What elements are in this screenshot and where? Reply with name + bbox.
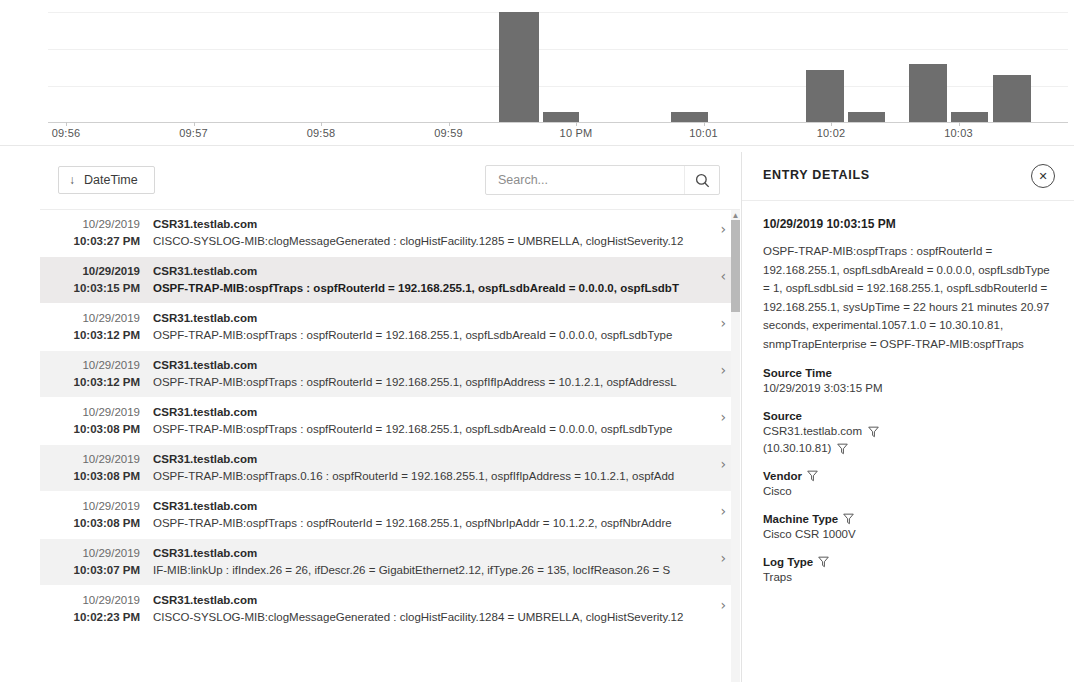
expand-chevron-icon[interactable]: › <box>720 410 726 424</box>
entry-row-timestamp: 10/29/201910:03:27 PM <box>58 216 140 250</box>
entry-list-row[interactable]: 10/29/201910:03:12 PMCSR31.testlab.comOS… <box>40 304 740 351</box>
expand-chevron-icon[interactable]: › <box>720 222 726 236</box>
entry-row-time: 10:03:08 PM <box>58 421 140 438</box>
scroll-up-arrow-icon[interactable]: ▲ <box>731 210 740 220</box>
expand-chevron-icon[interactable]: › <box>720 504 726 518</box>
entry-row-time: 10:03:07 PM <box>58 562 140 579</box>
field-value-text: (10.30.10.81) <box>763 440 831 457</box>
entry-row-host: CSR31.testlab.com <box>153 451 710 468</box>
chart-bottom-divider <box>0 145 1074 146</box>
chart-x-tick <box>321 122 322 126</box>
entry-row-time: 10:03:12 PM <box>58 374 140 391</box>
entry-detail-field-value: CSR31.testlab.com <box>763 423 1057 440</box>
field-value-text: Cisco CSR 1000V <box>763 526 856 543</box>
entry-row-time: 10:03:08 PM <box>58 515 140 532</box>
filter-funnel-icon[interactable] <box>818 556 829 568</box>
chart-bar[interactable] <box>543 112 579 122</box>
expand-chevron-icon[interactable]: › <box>720 363 726 377</box>
chart-x-tick <box>66 122 67 126</box>
chart-bar[interactable] <box>848 112 885 122</box>
chart-x-tick <box>959 122 960 126</box>
entry-list-row[interactable]: 10/29/201910:03:08 PMCSR31.testlab.comOS… <box>40 492 740 539</box>
expand-chevron-icon[interactable]: › <box>720 457 726 471</box>
sort-descending-arrow-icon: ↓ <box>69 174 75 186</box>
expand-chevron-icon[interactable]: › <box>720 316 726 330</box>
field-value-text: Cisco <box>763 483 792 500</box>
close-icon[interactable]: ✕ <box>1031 164 1055 188</box>
field-label-text: Machine Type <box>763 513 838 525</box>
chart-bar[interactable] <box>806 70 844 122</box>
entry-row-timestamp: 10/29/201910:03:15 PM <box>58 263 140 297</box>
entry-details-body: 10/29/2019 10:03:15 PM OSPF-TRAP-MIB:osp… <box>742 201 1074 682</box>
filter-funnel-icon[interactable] <box>807 470 818 482</box>
chart-x-tick <box>831 122 832 126</box>
search-icon[interactable] <box>684 166 719 194</box>
expand-chevron-icon[interactable]: › <box>720 551 726 565</box>
chart-x-tick-label: 10:03 <box>944 127 973 139</box>
entry-details-header: ENTRY DETAILS ✕ <box>742 152 1074 201</box>
search-input[interactable] <box>486 167 684 193</box>
entry-list-row[interactable]: 10/29/201910:02:23 PMCSR31.testlab.comCI… <box>40 586 740 633</box>
entry-detail-field-value: Traps <box>763 569 1057 586</box>
list-toolbar: ↓ DateTime <box>40 152 740 210</box>
chart-bar[interactable] <box>671 112 708 122</box>
expand-chevron-icon[interactable]: › <box>720 598 726 612</box>
entry-row-timestamp: 10/29/201910:03:08 PM <box>58 498 140 532</box>
filter-funnel-icon[interactable] <box>868 426 879 438</box>
timeline-chart[interactable]: 09:5609:5709:5809:5910 PM10:0110:0210:03 <box>0 0 1074 146</box>
entry-row-time: 10:03:12 PM <box>58 327 140 344</box>
entry-row-timestamp: 10/29/201910:03:08 PM <box>58 451 140 485</box>
chart-x-tick-label: 09:57 <box>179 127 208 139</box>
entry-list-row[interactable]: 10/29/201910:03:07 PMCSR31.testlab.comIF… <box>40 539 740 586</box>
field-label-text: Source <box>763 410 802 422</box>
entry-row-timestamp: 10/29/201910:03:08 PM <box>58 404 140 438</box>
filter-funnel-icon[interactable] <box>843 513 854 525</box>
field-label-text: Source Time <box>763 367 832 379</box>
entry-row-date: 10/29/2019 <box>82 359 140 371</box>
chart-bar[interactable] <box>951 112 988 122</box>
entry-detail-field-value: Cisco CSR 1000V <box>763 526 1057 543</box>
scrollbar-thumb[interactable] <box>731 220 740 312</box>
entry-row-time: 10:03:27 PM <box>58 233 140 250</box>
chart-gridline <box>48 12 1068 13</box>
chart-x-tick <box>449 122 450 126</box>
entry-row-host: CSR31.testlab.com <box>153 263 710 280</box>
collapse-chevron-icon[interactable]: ‹ <box>720 269 726 283</box>
entry-list[interactable]: 10/29/201910:03:27 PMCSR31.testlab.comCI… <box>40 210 740 682</box>
sort-datetime-button[interactable]: ↓ DateTime <box>58 166 155 194</box>
chart-bar[interactable] <box>993 75 1031 122</box>
chart-x-axis <box>48 122 1068 123</box>
entry-row-date: 10/29/2019 <box>82 406 140 418</box>
chart-bar[interactable] <box>499 12 539 122</box>
search-box[interactable] <box>485 165 720 195</box>
entry-row-time: 10:03:15 PM <box>58 280 140 297</box>
entry-detail-field-label: Source Time <box>763 367 1057 379</box>
entry-row-timestamp: 10/29/201910:03:12 PM <box>58 310 140 344</box>
entry-list-row[interactable]: 10/29/201910:03:27 PMCSR31.testlab.comCI… <box>40 210 740 257</box>
chart-bar[interactable] <box>909 64 947 122</box>
entry-detail-timestamp: 10/29/2019 10:03:15 PM <box>763 217 1057 231</box>
chart-gridline <box>48 49 1068 50</box>
entry-row-host: CSR31.testlab.com <box>153 592 710 609</box>
entry-list-row[interactable]: 10/29/201910:03:15 PMCSR31.testlab.comOS… <box>40 257 740 304</box>
filter-funnel-icon[interactable] <box>837 443 848 455</box>
chart-x-tick <box>194 122 195 126</box>
entry-row-host: CSR31.testlab.com <box>153 216 710 233</box>
entry-detail-field-value: Cisco <box>763 483 1057 500</box>
entry-list-panel: ↓ DateTime 10/29/201910:03:27 PMCSR31.te… <box>40 152 740 682</box>
entry-detail-field-value: 10/29/2019 3:03:15 PM <box>763 380 1057 397</box>
entry-list-row[interactable]: 10/29/201910:03:12 PMCSR31.testlab.comOS… <box>40 351 740 398</box>
chart-x-tick-label: 09:59 <box>434 127 463 139</box>
entry-row-message: CISCO-SYSLOG-MIB:clogMessageGenerated : … <box>153 609 710 626</box>
entry-row-message: OSPF-TRAP-MIB:ospfTraps : ospfRouterId =… <box>153 280 710 297</box>
entry-list-row[interactable]: 10/29/201910:03:08 PMCSR31.testlab.comOS… <box>40 398 740 445</box>
entry-row-message: IF-MIB:linkUp : ifIndex.26 = 26, ifDescr… <box>153 562 710 579</box>
field-value-text: Traps <box>763 569 792 586</box>
entry-list-row[interactable]: 10/29/201910:03:08 PMCSR31.testlab.comOS… <box>40 445 740 492</box>
entry-row-host: CSR31.testlab.com <box>153 357 710 374</box>
entry-row-host: CSR31.testlab.com <box>153 498 710 515</box>
entry-row-date: 10/29/2019 <box>82 265 140 277</box>
entry-row-time: 10:02:23 PM <box>58 609 140 626</box>
entry-list-scrollbar[interactable] <box>731 210 740 682</box>
entry-detail-field-value: (10.30.10.81) <box>763 440 1057 457</box>
